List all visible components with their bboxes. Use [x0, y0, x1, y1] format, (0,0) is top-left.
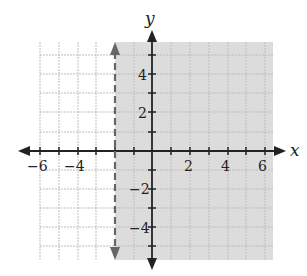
- tick-label-y-4: 4: [138, 67, 147, 83]
- tick-label-y-neg2: −2: [129, 181, 150, 197]
- y-axis-up-arrow-icon: [147, 30, 157, 42]
- y-axis-label: y: [144, 8, 155, 28]
- tick-label-x-2: 2: [184, 158, 193, 174]
- tick-label-y-neg4: −4: [129, 220, 150, 236]
- tick-label-x-4: 4: [221, 158, 230, 174]
- tick-label-y-2: 2: [138, 105, 147, 121]
- x-axis-right-arrow-icon: [274, 146, 286, 156]
- x-axis-label: x: [290, 140, 300, 160]
- tick-label-x-neg4: −4: [64, 158, 85, 174]
- x-axis-left-arrow-icon: [18, 146, 30, 156]
- tick-label-x-6: 6: [258, 158, 267, 174]
- y-axis-down-arrow-icon: [147, 258, 157, 270]
- coordinate-plane: y x −6 −4 2 4 6 4 2 −2 −4: [0, 0, 307, 276]
- tick-label-x-neg6: −6: [27, 158, 48, 174]
